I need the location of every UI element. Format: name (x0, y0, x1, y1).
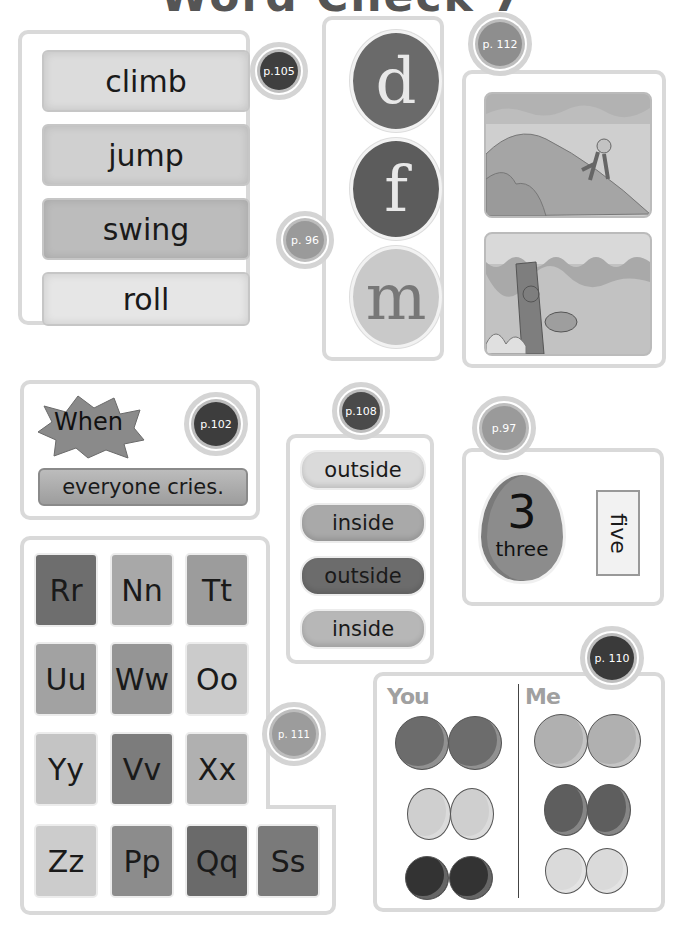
inside-outside-panel: outside inside outside inside (286, 434, 434, 664)
burst-word: When (54, 408, 123, 436)
letter-characters-panel: d f m (322, 16, 444, 361)
page-badge-112: p. 112 (468, 12, 532, 76)
counter-you-row2-b (450, 788, 494, 840)
page-badge-108: p.108 (332, 382, 390, 440)
letter-tile-nn[interactable]: Nn (110, 553, 174, 627)
pill-outside-2[interactable]: outside (300, 556, 426, 596)
letter-tile-yy[interactable]: Yy (34, 732, 98, 806)
you-me-panel: You Me (373, 672, 665, 912)
monkey-swinging-illustration (486, 234, 650, 354)
letter-d-character: d (350, 30, 442, 132)
counter-you-row1-b (448, 716, 502, 770)
letter-tile-qq[interactable]: Qq (185, 824, 249, 898)
phrase-card[interactable]: everyone cries. (38, 468, 248, 506)
egg-number: 3 (481, 485, 563, 539)
word-label: jump (108, 138, 184, 173)
letter-tile-rr[interactable]: Rr (34, 553, 98, 627)
page-badge-111: p. 111 (262, 702, 326, 766)
monkey-climbing-illustration (486, 94, 650, 216)
letter-f-character: f (350, 138, 442, 240)
counter-me-row2-b (587, 784, 631, 836)
page-badge-96: p. 96 (276, 211, 334, 269)
page-badge-110: p. 110 (580, 626, 644, 690)
letter-tile-oo[interactable]: Oo (185, 642, 249, 716)
letter-tile-tt[interactable]: Tt (185, 553, 249, 627)
column-divider (518, 684, 519, 898)
letter-tile-vv[interactable]: Vv (110, 732, 174, 806)
word-card-roll[interactable]: roll (42, 272, 250, 326)
pill-inside-2[interactable]: inside (300, 609, 426, 649)
counter-me-row1-b (587, 714, 641, 768)
word-label: roll (123, 282, 170, 317)
counter-you-row2-a (407, 788, 451, 840)
pill-inside-1[interactable]: inside (300, 503, 426, 543)
story-scenes-panel (462, 70, 666, 368)
letter-tile-zz[interactable]: Zz (34, 824, 98, 898)
counter-you-row1-a (395, 716, 449, 770)
pill-outside-1[interactable]: outside (300, 450, 426, 490)
letter-tile-ww[interactable]: Ww (110, 642, 174, 716)
card-word: five (606, 513, 631, 553)
scene-monkey-swinging (484, 232, 652, 356)
letter-m-character: m (350, 246, 442, 348)
word-label: swing (103, 212, 190, 247)
word-label: climb (105, 64, 186, 99)
alphabet-panel-step (266, 805, 336, 809)
word-card-jump[interactable]: jump (42, 124, 250, 186)
letter-tile-pp[interactable]: Pp (110, 824, 174, 898)
counter-me-row3-a (545, 848, 587, 894)
letter-tile-uu[interactable]: Uu (34, 642, 98, 716)
letter-tile-xx[interactable]: Xx (185, 732, 249, 806)
you-label: You (387, 684, 429, 709)
counter-you-row3-b (449, 856, 493, 900)
letter-tile-ss[interactable]: Ss (256, 824, 320, 898)
counter-me-row1-a (534, 714, 588, 768)
page-badge-102: p.102 (184, 392, 248, 456)
counter-me-row2-a (544, 784, 588, 836)
number-word-card[interactable]: five (596, 490, 640, 576)
action-words-panel: climb jump swing roll (18, 30, 250, 325)
counter-you-row3-a (405, 856, 449, 900)
page-badge-97: p.97 (472, 396, 536, 460)
me-label: Me (525, 684, 560, 709)
word-card-swing[interactable]: swing (42, 198, 250, 260)
scene-monkey-climbing (484, 92, 652, 218)
page-title: Word Check 7 (0, 0, 685, 10)
phrase-text: everyone cries. (62, 475, 224, 499)
page-badge-105: p.105 (250, 42, 308, 100)
counter-me-row3-b (586, 848, 628, 894)
number-egg[interactable]: 3 three (478, 472, 566, 584)
egg-number-word: three (481, 537, 563, 561)
number-egg-panel: 3 three five (462, 448, 664, 606)
word-card-climb[interactable]: climb (42, 50, 250, 112)
